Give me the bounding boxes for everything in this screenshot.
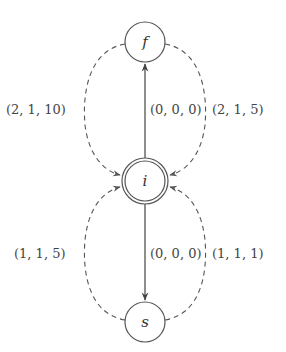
state-diagram: f i s (2, 1, 10) (0, 0, 0) (2, 1, 5) (1,… — [0, 0, 286, 352]
node-i-label: i — [143, 172, 148, 190]
edge-label-s-i-right: (1, 1, 1) — [212, 246, 264, 261]
edge-s-to-i-left — [84, 187, 125, 320]
edge-f-to-i-left — [84, 44, 125, 175]
node-s: s — [125, 302, 165, 342]
edge-label-f-i-right: (2, 1, 5) — [212, 102, 264, 117]
edge-label-i-f: (0, 0, 0) — [150, 102, 202, 117]
node-f: f — [125, 22, 165, 62]
edge-label-i-s: (0, 0, 0) — [150, 246, 202, 261]
edge-label-f-i-left: (2, 1, 10) — [6, 102, 66, 117]
edge-label-s-i-left: (1, 1, 5) — [14, 246, 66, 261]
node-i: i — [122, 158, 168, 204]
node-s-label: s — [141, 313, 149, 331]
